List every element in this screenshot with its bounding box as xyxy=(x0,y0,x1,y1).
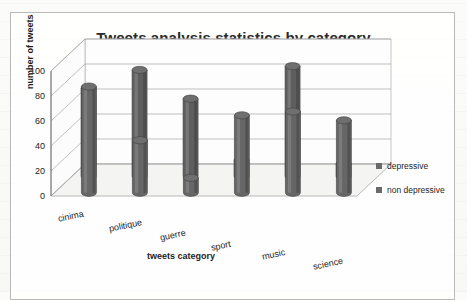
bar-politique-non-depressive[interactable] xyxy=(132,137,147,197)
legend-label-non-depressive: non depressive xyxy=(387,185,445,195)
y-tick-0: 0 xyxy=(19,191,45,201)
bar-music-non-depressive-highlight xyxy=(288,112,291,193)
bar-cinima-non-depressive-top xyxy=(81,83,96,90)
y-tick-60: 60 xyxy=(19,116,45,126)
bar-science-non-depressive-shadow xyxy=(347,120,350,193)
bar-sport-non-depressive-highlight xyxy=(237,115,240,193)
bar-music-non-depressive-top xyxy=(285,108,300,115)
y-tick-100: 100 xyxy=(19,66,45,76)
bar-science-non-depressive-top xyxy=(336,117,351,124)
chart-frame: Tweets analysis statistics by category n… xyxy=(10,12,455,300)
legend-swatch-non-depressive xyxy=(376,187,382,193)
bar-music-non-depressive[interactable] xyxy=(285,108,300,196)
bar-guerre-non-depressive[interactable] xyxy=(183,174,198,196)
legend-item-depressive[interactable]: depressive xyxy=(376,161,445,171)
bar-politique-non-depressive-top xyxy=(132,137,147,144)
x-axis-title: tweets category xyxy=(11,251,351,261)
bar-sport-non-depressive[interactable] xyxy=(234,112,249,197)
bar-music-depressive-top xyxy=(285,63,300,70)
bar-politique-non-depressive-shadow xyxy=(143,140,146,193)
y-tick-20: 20 xyxy=(19,166,45,176)
chart-legend: depressive non depressive xyxy=(376,161,445,209)
y-axis-title: number of tweets xyxy=(25,14,35,89)
legend-label-depressive: depressive xyxy=(387,161,428,171)
bar-science-non-depressive-highlight xyxy=(339,120,342,193)
bar-politique-non-depressive-highlight xyxy=(135,140,138,193)
chart-3d-scene xyxy=(51,71,391,241)
bar-guerre-non-depressive-top xyxy=(183,174,198,181)
bar-science-non-depressive[interactable] xyxy=(336,117,351,197)
bar-guerre-depressive-top xyxy=(183,95,198,102)
plot-area: 100 80 60 40 20 0 cinimapolitiqueguerres… xyxy=(51,71,391,231)
bar-guerre-depressive[interactable] xyxy=(183,95,198,180)
legend-item-non-depressive[interactable]: non depressive xyxy=(376,185,445,195)
bar-politique-depressive-top xyxy=(132,66,147,73)
bar-sport-non-depressive-shadow xyxy=(245,115,248,193)
bar-cinima-non-depressive[interactable] xyxy=(81,83,96,196)
bar-sport-non-depressive-top xyxy=(234,112,249,119)
bar-cinima-non-depressive-highlight xyxy=(84,87,87,193)
bar-guerre-depressive-highlight xyxy=(186,99,189,177)
bar-guerre-depressive-shadow xyxy=(194,99,197,177)
bar-music-non-depressive-shadow xyxy=(296,112,299,193)
legend-swatch-depressive xyxy=(376,163,382,169)
y-tick-40: 40 xyxy=(19,141,45,151)
bar-cinima-non-depressive-shadow xyxy=(92,87,95,193)
y-tick-80: 80 xyxy=(19,91,45,101)
